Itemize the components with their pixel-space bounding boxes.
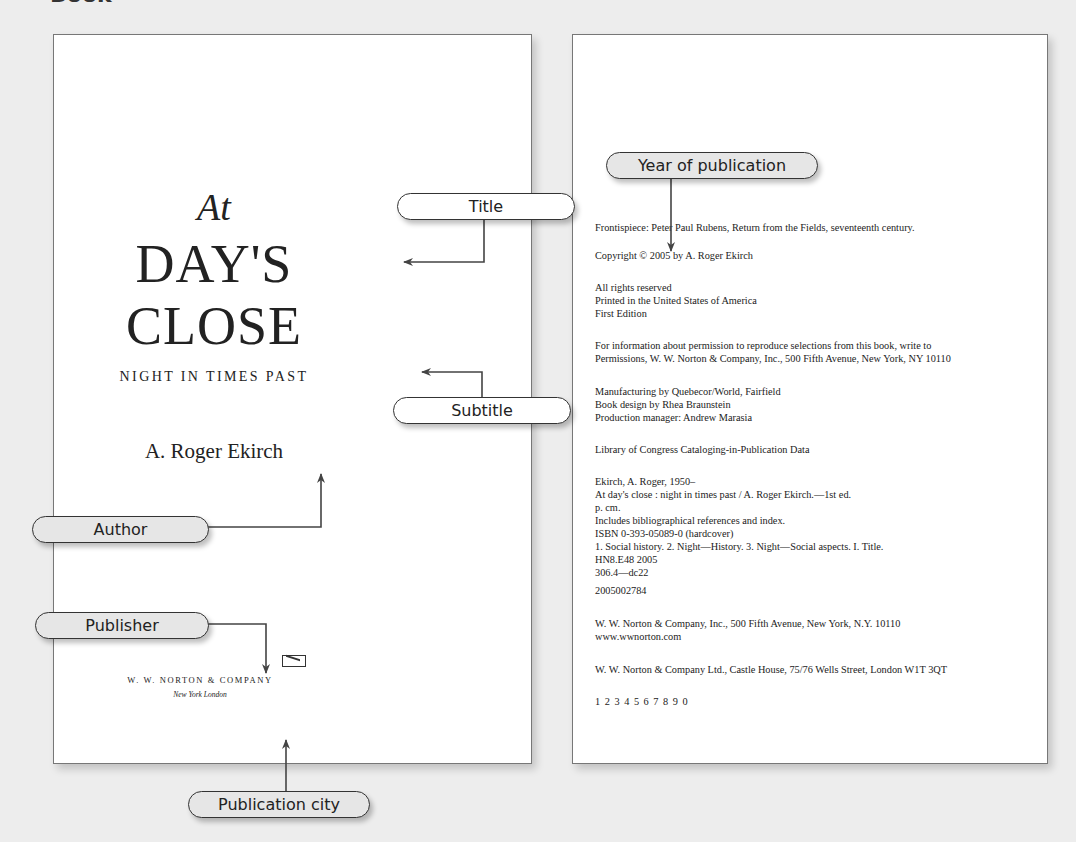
callout-publication-city: Publication city <box>188 791 370 818</box>
edition-line: First Edition <box>595 307 1045 321</box>
cip-dewey: 306.4—dc22 <box>595 566 1045 580</box>
title-line-1: DAY'S <box>54 233 374 295</box>
cip-pages: p. cm. <box>595 501 1045 515</box>
book-subtitle: NIGHT IN TIMES PAST <box>54 369 374 385</box>
design-line: Book design by Rhea Braunstein <box>595 398 1045 412</box>
copyright-line: Copyright © 2005 by A. Roger Ekirch <box>595 249 1045 263</box>
cip-class: HN8.E48 2005 <box>595 553 1045 567</box>
cip-lccn: 2005002784 <box>595 584 1045 598</box>
cip-includes: Includes bibliographical references and … <box>595 514 1045 528</box>
callout-year-of-publication: Year of publication <box>606 152 818 179</box>
address-us: W. W. Norton & Company, Inc., 500 Fifth … <box>595 617 1045 631</box>
callout-subtitle: Subtitle <box>393 397 571 424</box>
permission-line-2: Permissions, W. W. Norton & Company, Inc… <box>595 352 1045 366</box>
manufacturing-line: Manufacturing by Quebecor/World, Fairfie… <box>595 385 1045 399</box>
callout-publisher: Publisher <box>35 612 209 639</box>
title-prefix: At <box>54 185 374 229</box>
production-line: Production manager: Andrew Marasia <box>595 411 1045 425</box>
rights-line: All rights reserved <box>595 281 1045 295</box>
norton-colophon-icon <box>282 655 306 667</box>
printing-line: 1 2 3 4 5 6 7 8 9 0 <box>595 695 1045 709</box>
book-author: A. Roger Ekirch <box>54 439 374 464</box>
website: www.wwnorton.com <box>595 630 1045 644</box>
cip-title: At day's close : night in times past / A… <box>595 488 1045 502</box>
title-line-2: CLOSE <box>54 295 374 357</box>
printed-line: Printed in the United States of America <box>595 294 1045 308</box>
callout-author: Author <box>32 516 209 543</box>
cip-isbn: ISBN 0-393-05089-0 (hardcover) <box>595 527 1045 541</box>
loc-line: Library of Congress Cataloging-in-Public… <box>595 443 1045 457</box>
cip-subjects: 1. Social history. 2. Night—History. 3. … <box>595 540 1045 554</box>
publisher-name: W. W. NORTON & COMPANY <box>54 675 534 685</box>
cip-author: Ekirch, A. Roger, 1950– <box>595 475 1045 489</box>
address-uk: W. W. Norton & Company Ltd., Castle Hous… <box>595 663 1045 677</box>
publication-cities: New York London <box>54 690 534 699</box>
frontispiece-line: Frontispiece: Peter Paul Rubens, Return … <box>595 221 1045 235</box>
permission-line-1: For information about permission to repr… <box>595 339 1045 353</box>
section-heading: Book <box>50 0 112 7</box>
copyright-page: Frontispiece: Peter Paul Rubens, Return … <box>572 34 1048 764</box>
callout-title: Title <box>397 193 575 220</box>
